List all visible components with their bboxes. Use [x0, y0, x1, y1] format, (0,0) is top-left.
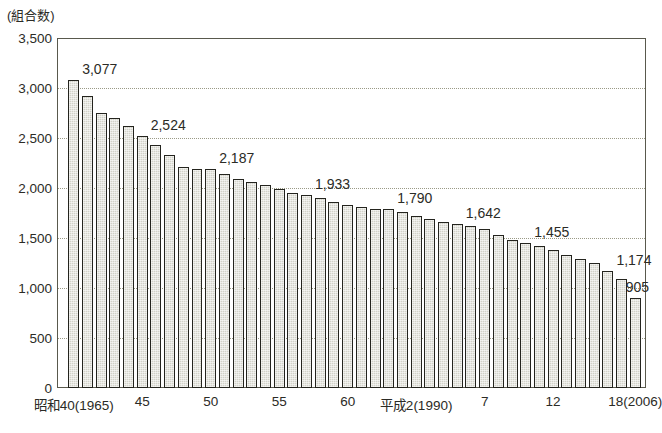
- bar-value-label: 3,077: [82, 61, 117, 77]
- bar: [507, 240, 518, 388]
- bar: [328, 202, 339, 388]
- y-axis-unit-label: (組合数): [7, 5, 55, 24]
- bar: [301, 195, 312, 388]
- bars-layer: [57, 38, 646, 388]
- x-axis-tick-label: 平成2(1990): [380, 394, 453, 414]
- bar: [438, 222, 449, 388]
- bar: [123, 126, 134, 389]
- y-axis-tick-label: 2,500: [0, 131, 52, 146]
- bar: [109, 118, 120, 388]
- bar: [383, 209, 394, 388]
- bar: [424, 219, 435, 388]
- bar-value-label: 1,455: [534, 224, 569, 240]
- bar-value-label: 905: [626, 279, 649, 295]
- bar: [164, 155, 175, 388]
- bar: [82, 96, 93, 388]
- x-axis-tick-label: 50: [203, 394, 218, 409]
- bar-value-label: 2,187: [219, 150, 254, 166]
- bar: [397, 212, 408, 388]
- bar: [561, 255, 572, 388]
- x-axis-tick-label: 60: [340, 394, 355, 409]
- bar: [246, 182, 257, 388]
- bar-value-label: 1,790: [397, 190, 432, 206]
- y-axis-tick-label: 3,000: [0, 81, 52, 96]
- y-axis-tick-label: 2,000: [0, 181, 52, 196]
- bar: [630, 298, 641, 389]
- x-axis-tick-label: 12: [546, 394, 561, 409]
- x-axis-tick-label: 昭和40(1965): [34, 394, 114, 414]
- bar: [287, 193, 298, 389]
- bar: [411, 216, 422, 388]
- bar: [575, 259, 586, 388]
- bar: [548, 250, 559, 388]
- bar: [616, 279, 627, 388]
- bar: [315, 198, 326, 388]
- bar-value-label: 1,933: [315, 176, 350, 192]
- bar: [205, 169, 216, 388]
- bar: [219, 174, 230, 388]
- bar: [150, 145, 161, 388]
- bar: [68, 80, 79, 388]
- bar: [274, 189, 285, 388]
- x-axis-tick-label: 45: [135, 394, 150, 409]
- bar: [233, 179, 244, 388]
- bar: [356, 207, 367, 388]
- bar: [479, 229, 490, 388]
- bar-value-label: 2,524: [151, 117, 186, 133]
- bar: [602, 271, 613, 388]
- bar: [520, 243, 531, 389]
- y-axis-tick-label: 1,500: [0, 231, 52, 246]
- bar: [137, 136, 148, 388]
- x-axis-tick-label: 7: [481, 394, 489, 409]
- bar: [96, 113, 107, 389]
- bar: [178, 167, 189, 389]
- bar: [534, 246, 545, 388]
- y-axis-tick-label: 500: [0, 331, 52, 346]
- bar: [589, 263, 600, 388]
- bar-value-label: 1,642: [466, 205, 501, 221]
- bar: [192, 169, 203, 388]
- y-axis-tick-label: 3,500: [0, 31, 52, 46]
- bar: [452, 224, 463, 388]
- bar: [260, 185, 271, 389]
- bar: [370, 209, 381, 389]
- bar: [465, 226, 476, 388]
- y-axis-tick-label: 1,000: [0, 281, 52, 296]
- x-axis-tick-label: 18(2006): [608, 394, 662, 409]
- bar-value-label: 1,174: [616, 252, 651, 268]
- bar: [493, 235, 504, 388]
- bar: [342, 205, 353, 388]
- x-axis-tick-label: 55: [272, 394, 287, 409]
